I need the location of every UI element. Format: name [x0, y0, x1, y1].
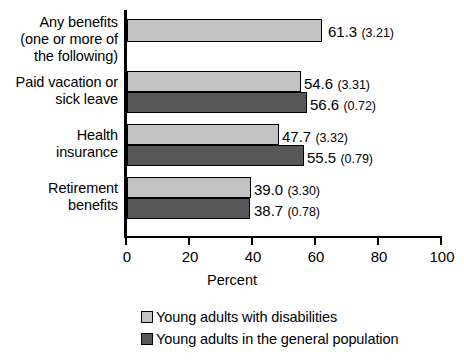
bar-paid-vacation-general [127, 92, 307, 113]
bar-value-any-benefits-disabilities: 61.3 (3.21) [328, 24, 394, 40]
bar-value-paid-vacation-general: 56.6 (0.72) [310, 97, 376, 113]
bar-value-retirement-disabilities: 39.0 (3.30) [254, 182, 320, 198]
bar-paid-vacation-disabilities [127, 71, 301, 92]
bar-value-se: (0.72) [343, 99, 376, 113]
legend-label-general-population: Young adults in the general population [156, 331, 398, 347]
x-tick-label-100: 100 [419, 248, 464, 265]
category-label-retirement-benefits: Retirement benefits [0, 180, 118, 214]
x-axis-title: Percent [0, 272, 464, 288]
bar-health-insurance-general [127, 145, 304, 166]
bar-value-number: 47.7 [282, 128, 311, 145]
bar-retirement-general [127, 198, 250, 219]
bar-value-paid-vacation-disabilities: 54.6 (3.31) [304, 76, 370, 92]
legend-item-general-population: Young adults in the general population [141, 328, 398, 350]
bar-value-health-insurance-disabilities: 47.7 (3.32) [282, 129, 348, 145]
x-tick-label-20: 20 [167, 248, 213, 265]
category-label-health-insurance: Health insurance [0, 127, 118, 161]
x-tick-40 [251, 238, 253, 245]
x-axis-line [124, 236, 442, 238]
bar-value-number: 54.6 [304, 75, 333, 92]
chart-legend: Young adults with disabilities Young adu… [141, 306, 398, 350]
x-tick-label-80: 80 [356, 248, 402, 265]
bar-value-health-insurance-general: 55.5 (0.79) [307, 150, 373, 166]
category-label-any-benefits: Any benefits (one or more of the followi… [0, 14, 118, 65]
bar-value-se: (0.79) [340, 152, 373, 166]
bar-chart: Any benefits (one or more of the followi… [0, 0, 464, 360]
legend-swatch-icon-disabilities [141, 311, 153, 323]
bar-value-retirement-general: 38.7 (0.78) [254, 203, 320, 219]
x-tick-label-40: 40 [230, 248, 276, 265]
bar-value-se: (3.32) [315, 131, 348, 145]
x-tick-label-60: 60 [293, 248, 339, 265]
x-tick-100 [440, 238, 442, 245]
bar-value-number: 38.7 [254, 202, 283, 219]
bar-value-se: (3.30) [287, 184, 320, 198]
bar-value-se: (3.31) [337, 78, 370, 92]
bar-health-insurance-disabilities [127, 124, 279, 145]
legend-label-disabilities: Young adults with disabilities [156, 309, 337, 325]
x-tick-label-0: 0 [104, 248, 150, 265]
bar-value-se: (3.21) [361, 26, 394, 40]
bar-any-benefits-disabilities [127, 19, 322, 42]
bar-value-number: 39.0 [254, 181, 283, 198]
bar-value-number: 55.5 [307, 149, 336, 166]
legend-item-disabilities: Young adults with disabilities [141, 306, 398, 328]
x-tick-60 [314, 238, 316, 245]
x-tick-20 [188, 238, 190, 245]
x-tick-80 [377, 238, 379, 245]
bar-value-number: 61.3 [328, 23, 357, 40]
bar-retirement-disabilities [127, 177, 251, 198]
legend-swatch-icon-general-population [141, 333, 153, 345]
bar-value-number: 56.6 [310, 96, 339, 113]
x-tick-0 [125, 238, 127, 245]
bar-value-se: (0.78) [287, 205, 320, 219]
category-label-paid-vacation: Paid vacation or sick leave [0, 74, 118, 108]
